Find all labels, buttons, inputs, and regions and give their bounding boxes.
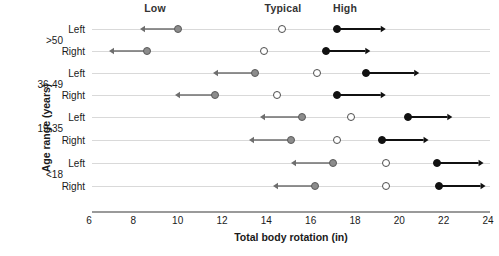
high-arrow <box>408 112 452 123</box>
x-tick-label-16: 16 <box>305 215 316 226</box>
low-arrow <box>109 46 147 57</box>
low-marker <box>287 136 295 144</box>
x-tick-label-18: 18 <box>349 215 360 226</box>
high-arrow <box>437 158 484 169</box>
high-marker <box>435 182 443 190</box>
x-tick-label-22: 22 <box>438 215 449 226</box>
row-baseline <box>92 51 490 52</box>
typical-marker <box>260 47 268 55</box>
x-axis-title: Total body rotation (in) <box>234 231 348 243</box>
high-marker <box>433 159 441 167</box>
typical-marker <box>347 113 355 121</box>
x-tick-label-8: 8 <box>131 215 137 226</box>
row-label-7: Right <box>62 181 85 192</box>
low-arrow <box>291 158 333 169</box>
x-tick-label-6: 6 <box>86 215 92 226</box>
x-tick-label-24: 24 <box>482 215 493 226</box>
low-arrow <box>140 24 178 35</box>
high-arrow <box>439 181 486 192</box>
low-arrow <box>213 68 255 79</box>
row-label-1: Right <box>62 46 85 57</box>
typical-marker <box>382 182 390 190</box>
high-arrow <box>326 46 370 57</box>
typical-marker <box>278 25 286 33</box>
row-label-6: Left <box>68 158 85 169</box>
x-tick-label-12: 12 <box>216 215 227 226</box>
low-marker <box>251 69 259 77</box>
row-label-3: Right <box>62 90 85 101</box>
x-tick-label-20: 20 <box>394 215 405 226</box>
row-baseline <box>92 95 490 96</box>
typical-marker <box>313 69 321 77</box>
row-label-0: Left <box>68 24 85 35</box>
high-arrow <box>382 135 429 146</box>
high-arrow <box>337 90 386 101</box>
high-arrow <box>366 68 419 79</box>
age-group-label-under-18: <18 <box>46 169 63 180</box>
row-label-5: Right <box>62 135 85 146</box>
column-header-typical: Typical <box>265 2 302 14</box>
high-marker <box>378 136 386 144</box>
low-arrow <box>175 90 215 101</box>
typical-marker <box>333 136 341 144</box>
low-marker <box>329 159 337 167</box>
high-marker <box>362 69 370 77</box>
column-header-high: High <box>333 2 357 14</box>
high-marker <box>404 113 412 121</box>
age-group-label-19-35: 19-35 <box>37 123 63 134</box>
x-tick-label-14: 14 <box>261 215 272 226</box>
typical-marker <box>382 159 390 167</box>
low-marker <box>298 113 306 121</box>
chart-container: Low Typical High Age range (years) >50 3… <box>0 0 499 256</box>
low-arrow <box>273 181 315 192</box>
x-axis-line <box>92 211 490 213</box>
row-baseline <box>92 73 490 74</box>
low-arrow <box>249 135 291 146</box>
low-marker <box>174 25 182 33</box>
low-marker <box>211 91 219 99</box>
column-header-low: Low <box>144 2 166 14</box>
age-group-label-36-49: 36-49 <box>37 79 63 90</box>
high-marker <box>333 91 341 99</box>
low-marker <box>311 182 319 190</box>
high-marker <box>322 47 330 55</box>
high-arrow <box>337 24 386 35</box>
x-tick-label-10: 10 <box>172 215 183 226</box>
row-label-4: Left <box>68 112 85 123</box>
row-label-2: Left <box>68 68 85 79</box>
age-group-label-over-50: >50 <box>46 35 63 46</box>
low-marker <box>143 47 151 55</box>
low-arrow <box>260 112 302 123</box>
high-marker <box>333 25 341 33</box>
typical-marker <box>273 91 281 99</box>
